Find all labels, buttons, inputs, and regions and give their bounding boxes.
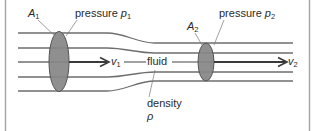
- cross-section-a1: [49, 32, 69, 92]
- label-pressure-2: pressure p2: [219, 8, 275, 21]
- label-velocity-1: v1: [111, 56, 121, 69]
- label-density-symbol: ρ: [147, 111, 153, 122]
- label-pressure-1-subscript: 1: [127, 12, 131, 21]
- label-pressure-1-text: pressure: [75, 7, 121, 19]
- leader-p2: [214, 20, 224, 45]
- label-velocity-1-subscript: 1: [117, 60, 121, 69]
- velocity-arrow-v2: [214, 58, 287, 67]
- label-area-1: A1: [28, 8, 40, 21]
- label-pressure-1: pressure p1: [75, 8, 131, 21]
- fluid-flow-diagram: A1 pressure p1 A2 pressure p2 v1 fluid v…: [0, 0, 313, 131]
- label-velocity-2-subscript: 2: [294, 60, 298, 69]
- label-pressure-2-text: pressure: [219, 7, 265, 19]
- label-velocity-2: v2: [288, 56, 298, 69]
- label-area-1-subscript: 1: [35, 12, 39, 21]
- label-fluid: fluid: [147, 56, 167, 67]
- label-area-2: A2: [187, 21, 199, 34]
- leader-density: [149, 70, 155, 97]
- label-pressure-2-subscript: 2: [271, 12, 275, 21]
- velocity-arrow-v1: [69, 58, 109, 67]
- label-density: density: [147, 98, 182, 109]
- label-area-2-subscript: 2: [194, 25, 198, 34]
